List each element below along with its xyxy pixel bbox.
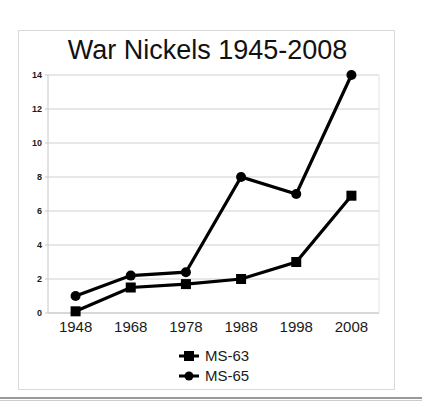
data-point-ms-63 <box>236 274 246 284</box>
series-line-ms-65 <box>76 75 352 296</box>
data-point-ms-63 <box>71 306 81 316</box>
axes <box>48 75 379 313</box>
legend-label-ms-63: MS-63 <box>205 347 249 364</box>
page-divider-rule <box>0 397 422 399</box>
data-point-ms-65 <box>126 271 136 281</box>
data-point-ms-65 <box>236 172 246 182</box>
y-axis-tick-labels: 02468101214 <box>32 70 48 318</box>
data-point-ms-65 <box>346 70 356 80</box>
x-tick-label: 1978 <box>169 318 202 335</box>
series-line-ms-63 <box>76 196 352 312</box>
legend-marker-ms-65 <box>185 372 194 381</box>
y-tick-label: 10 <box>32 138 42 148</box>
gridlines <box>48 75 379 313</box>
data-point-ms-63 <box>346 191 356 201</box>
plot-area: 02468101214 194819681978198819982008 MS-… <box>19 31 396 391</box>
x-axis-tick-labels: 194819681978198819982008 <box>59 318 368 335</box>
y-tick-label: 12 <box>32 104 42 114</box>
legend-label-ms-65: MS-65 <box>205 367 249 384</box>
y-tick-label: 0 <box>37 308 42 318</box>
x-tick-label: 1988 <box>224 318 257 335</box>
y-tick-label: 4 <box>37 240 42 250</box>
x-tick-label: 1968 <box>114 318 147 335</box>
x-tick-label: 1948 <box>59 318 92 335</box>
y-tick-label: 2 <box>37 274 42 284</box>
legend-marker-ms-63 <box>184 351 194 361</box>
data-point-ms-63 <box>126 283 136 293</box>
data-point-ms-65 <box>71 291 81 301</box>
data-point-ms-63 <box>291 257 301 267</box>
x-tick-label: 1998 <box>280 318 313 335</box>
x-tick-label: 2008 <box>335 318 368 335</box>
page-divider-rule-soft <box>0 400 422 401</box>
data-point-ms-65 <box>291 189 301 199</box>
data-point-ms-65 <box>181 267 191 277</box>
y-tick-label: 6 <box>37 206 42 216</box>
chart-legend: MS-63MS-65 <box>179 347 249 384</box>
y-tick-label: 8 <box>37 172 42 182</box>
line-chart-svg: 02468101214 194819681978198819982008 MS-… <box>19 31 396 391</box>
y-tick-label: 14 <box>32 70 42 80</box>
chart-card: War Nickels 1945-2008 02468101214 194819… <box>18 30 395 390</box>
data-point-ms-63 <box>181 279 191 289</box>
